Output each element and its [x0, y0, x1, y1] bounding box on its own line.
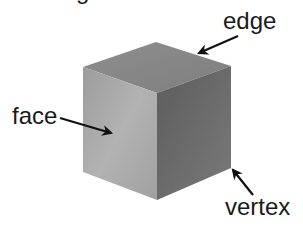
vertex-arrow-icon: [233, 170, 253, 195]
edge-label: edge: [223, 9, 276, 33]
partial-heading-fragment: g: [76, 0, 89, 3]
edge-arrow-icon: [199, 36, 238, 53]
vertex-label: vertex: [225, 195, 290, 219]
cube-diagram: g edge face vertex: [0, 0, 303, 233]
face-label: face: [12, 104, 57, 128]
